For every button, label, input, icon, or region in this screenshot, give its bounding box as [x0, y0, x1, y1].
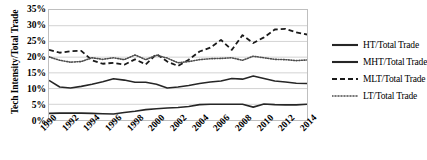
legend-swatch-solid-icon: [332, 57, 358, 67]
legend-item-0[interactable]: HT/Total Trade: [332, 36, 426, 53]
plot-area: [48, 9, 308, 121]
y-tick-label: 25%: [27, 36, 46, 46]
legend-label: LT/Total Trade: [363, 91, 417, 101]
y-tick-label: 35%: [27, 4, 46, 14]
legend-item-1[interactable]: MHT/Total Trade: [332, 53, 426, 70]
y-tick-label: 30%: [27, 20, 46, 30]
legend-item-2[interactable]: MLT/Total Trade: [332, 70, 426, 87]
y-tick-label: 15%: [27, 68, 46, 78]
y-tick-label: 5%: [32, 100, 46, 110]
series-line-1: [49, 76, 307, 88]
plot-svg: [49, 10, 307, 120]
chart-legend: HT/Total TradeMHT/Total TradeMLT/Total T…: [332, 36, 426, 104]
x-axis-tick-labels: 1990199219941996199820002002200420062008…: [0, 122, 426, 160]
legend-swatch-dashed-icon: [332, 74, 358, 84]
legend-label: MLT/Total Trade: [363, 74, 425, 84]
legend-swatch-solid-icon: [332, 40, 358, 50]
legend-item-3[interactable]: LT/Total Trade: [332, 87, 426, 104]
legend-swatch-dotted-icon: [332, 91, 358, 101]
legend-label: MHT/Total Trade: [363, 57, 427, 67]
y-tick-label: 20%: [27, 52, 46, 62]
y-tick-label: 10%: [27, 84, 46, 94]
series-line-2: [49, 29, 307, 66]
legend-label: HT/Total Trade: [363, 40, 419, 50]
